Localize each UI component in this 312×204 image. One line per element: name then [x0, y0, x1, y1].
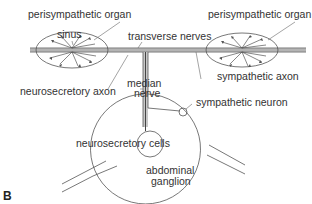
label-abdominal-ganglion-2: ganglion [151, 175, 191, 187]
label-median-nerve-2: nerve [134, 87, 160, 99]
label-sinus: sinus [57, 28, 82, 40]
label-transverse-nerves: transverse nerves [128, 30, 211, 42]
transverse-nerve [30, 48, 306, 52]
branch-nerve-left [62, 161, 117, 192]
label-neurosecretory-axon: neurosecretory axon [20, 85, 116, 97]
label-perisympathetic-organ-left: perisympathetic organ [28, 8, 131, 20]
branch-nerve-right [207, 145, 245, 174]
panel-label: B [3, 189, 12, 203]
label-sympathetic-neuron: sympathetic neuron [196, 96, 288, 108]
neuroanatomy-diagram: perisympathetic organ sinus transverse n… [0, 0, 312, 204]
label-sympathetic-axon: sympathetic axon [217, 70, 299, 82]
label-neurosecretory-cells: neurosecretory cells [76, 137, 170, 149]
sympathetic-neuron [148, 108, 187, 116]
label-perisympathetic-organ-right: perisympathetic organ [208, 8, 311, 20]
